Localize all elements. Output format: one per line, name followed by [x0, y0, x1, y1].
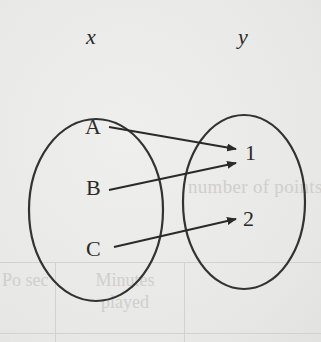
arrow-b-to-1 — [109, 163, 236, 190]
domain-element-a: A — [85, 116, 101, 138]
range-set-oval — [183, 115, 305, 289]
domain-element-b: B — [86, 177, 101, 199]
domain-set-label: x — [86, 26, 96, 48]
range-set-label: y — [238, 26, 248, 48]
diagram-page: number of points scored fo Minutes playe… — [0, 0, 321, 342]
mapping-graphics — [0, 0, 321, 342]
arrow-a-to-1 — [109, 127, 236, 149]
arrow-c-to-2 — [114, 219, 236, 247]
range-element-1: 1 — [245, 142, 256, 164]
range-element-2: 2 — [243, 208, 254, 230]
domain-element-c: C — [86, 238, 101, 260]
domain-set-oval — [29, 119, 163, 301]
